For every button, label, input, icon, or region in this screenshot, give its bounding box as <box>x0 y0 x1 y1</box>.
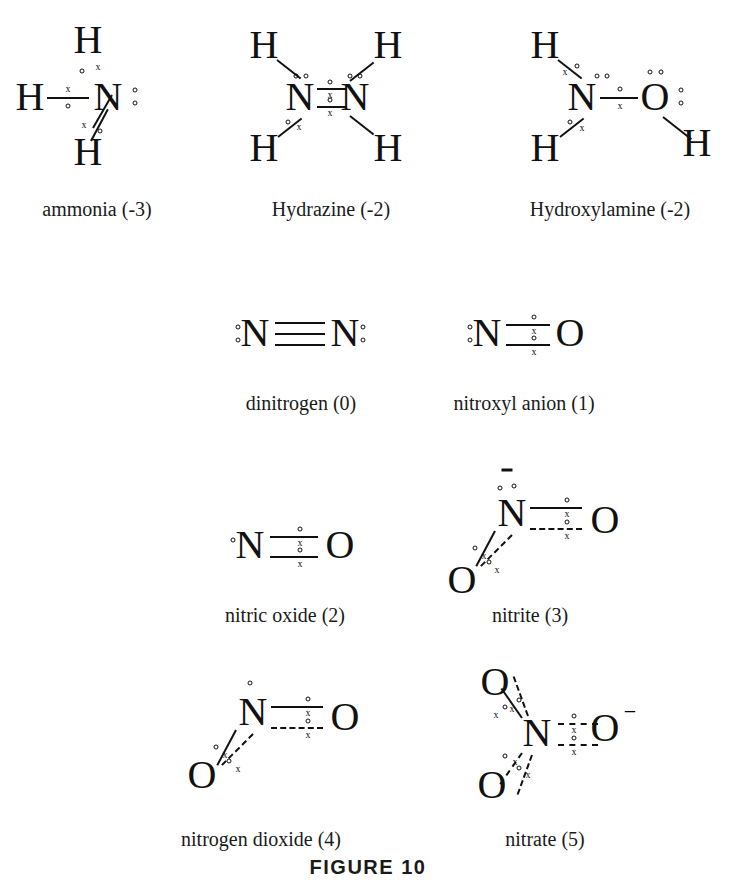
atom-O: O <box>556 313 585 353</box>
caption-nitroxyl-anion: nitroxyl anion (1) <box>453 392 594 415</box>
electron-x: x <box>580 123 585 133</box>
lone-pair-electron <box>236 325 241 330</box>
atom-N: N <box>236 525 265 565</box>
atom-O-right: O <box>591 500 620 540</box>
negative-charge <box>502 469 513 472</box>
electron-o <box>517 698 522 703</box>
unpaired-electron <box>231 538 236 543</box>
atom-H: H <box>250 128 279 168</box>
bond-N-O-solid <box>271 706 323 708</box>
bond-N-N-1 <box>275 322 325 324</box>
atom-O-right: O <box>591 708 620 748</box>
atom-O: O <box>641 77 670 117</box>
electron-o <box>517 766 522 771</box>
lone-pair-electron <box>358 74 363 79</box>
electron-x: x <box>532 347 537 357</box>
electron-o <box>328 80 333 85</box>
electron-o <box>503 754 508 759</box>
atom-H: H <box>531 25 560 65</box>
bond-N-O-upper <box>270 536 318 538</box>
electron-o <box>572 714 577 719</box>
bond-N-O-solid <box>530 507 582 509</box>
atom-N: N <box>523 713 552 753</box>
bond-N-N-3 <box>275 344 325 346</box>
atom-N-left: N <box>241 313 270 353</box>
bond-N-O-lower <box>270 556 318 558</box>
electron-o <box>568 120 573 125</box>
lone-pair-electron <box>679 101 684 106</box>
electron-x: x <box>306 708 311 718</box>
lone-pair-electron <box>498 486 503 491</box>
atom-N: N <box>239 692 268 732</box>
electron-o <box>565 498 570 503</box>
lone-pair-electron <box>133 88 138 93</box>
electron-o <box>227 759 232 764</box>
bond-N-O <box>600 97 638 99</box>
atom-H: H <box>374 128 403 168</box>
caption-nitrogen-dioxide: nitrogen dioxide (4) <box>181 828 341 851</box>
atom-N-right: N <box>341 77 370 117</box>
atom-H: H <box>374 25 403 65</box>
atom-H: H <box>531 128 560 168</box>
atom-O-lower: O <box>188 755 217 795</box>
electron-o <box>575 64 580 69</box>
electron-o <box>298 548 303 553</box>
lone-pair-electron <box>133 101 138 106</box>
electron-o <box>487 560 492 565</box>
bond-N-O-dashed <box>530 528 582 530</box>
lone-pair-electron <box>468 325 473 330</box>
electron-x: x <box>572 725 577 735</box>
bond-H-N <box>47 97 89 99</box>
electron-x: x <box>66 84 71 94</box>
electron-x: x <box>306 730 311 740</box>
electron-x: x <box>563 67 568 77</box>
atom-N-left: N <box>286 77 315 117</box>
atom-N: N <box>568 77 597 117</box>
atom-O-right: O <box>331 697 360 737</box>
electron-x: x <box>572 747 577 757</box>
electron-o <box>66 104 71 109</box>
electron-o <box>473 546 478 551</box>
bond-N-N-2 <box>275 333 325 335</box>
bond-N-O-lower <box>506 344 550 346</box>
atom-N: N <box>473 313 502 353</box>
electron-o <box>565 520 570 525</box>
electron-o <box>286 120 291 125</box>
lone-pair-electron <box>605 74 610 79</box>
electron-x: x <box>618 101 623 111</box>
electron-o <box>618 87 623 92</box>
electron-o <box>532 336 537 341</box>
figure-title: FIGURE 10 <box>310 856 427 879</box>
electron-o <box>306 697 311 702</box>
electron-o <box>328 98 333 103</box>
lone-pair-electron <box>348 74 353 79</box>
electron-o <box>532 315 537 320</box>
lone-pair-electron <box>468 338 473 343</box>
atom-H: H <box>74 132 103 172</box>
electron-o <box>98 129 103 134</box>
electron-x: x <box>82 120 87 130</box>
electron-x: x <box>297 122 302 132</box>
electron-x: x <box>236 764 241 774</box>
atom-O-lower: O <box>448 560 477 600</box>
atom-H: H <box>16 77 45 117</box>
atom-H: H <box>683 123 712 163</box>
lone-pair-electron <box>648 70 653 75</box>
bond-N-O-upper <box>506 324 550 326</box>
unpaired-electron <box>248 681 253 686</box>
electron-o <box>298 527 303 532</box>
atom-N: N <box>498 493 527 533</box>
electron-x: x <box>298 559 303 569</box>
atom-N-right: N <box>331 313 360 353</box>
atom-O-lower: O <box>478 765 507 805</box>
lone-pair-electron <box>236 338 241 343</box>
caption-ammonia: ammonia (-3) <box>42 198 151 221</box>
electron-o <box>306 719 311 724</box>
electron-x: x <box>565 509 570 519</box>
electron-x: x <box>298 538 303 548</box>
caption-nitric-oxide: nitric oxide (2) <box>225 604 345 627</box>
atom-O: O <box>326 525 355 565</box>
caption-hydrazine: Hydrazine (-2) <box>272 198 390 221</box>
lone-pair-electron <box>659 70 664 75</box>
electron-x: x <box>532 326 537 336</box>
